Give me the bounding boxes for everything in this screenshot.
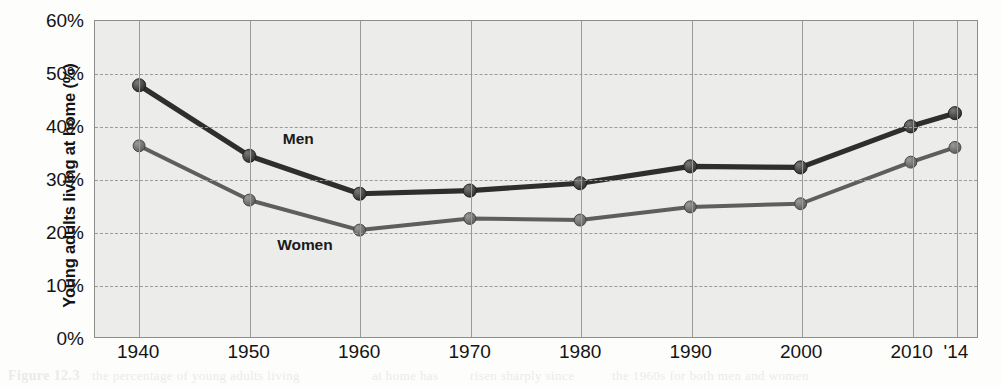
x-axis-tick-label: 2010	[891, 342, 933, 361]
data-point-marker	[684, 160, 697, 173]
x-axis-tick-label: 1990	[670, 342, 712, 361]
x-axis-tick-labels: 19401950196019701980199020002010'14	[94, 342, 978, 372]
vertical-gridline	[471, 21, 472, 337]
data-point-marker	[794, 161, 807, 174]
vertical-gridline	[957, 21, 958, 337]
vertical-gridline	[581, 21, 582, 337]
horizontal-gridline	[95, 127, 977, 128]
series-annotation-men: Men	[283, 130, 314, 148]
vertical-gridline	[913, 21, 914, 337]
vertical-gridline	[802, 21, 803, 337]
y-axis-tick-label: 60%	[28, 11, 84, 30]
data-point-marker	[795, 198, 807, 210]
x-axis-tick-label: 1950	[228, 342, 270, 361]
x-axis-tick-label: 1940	[117, 342, 159, 361]
figure-container: Figure 12.3the percentage of young adult…	[0, 0, 1001, 388]
vertical-gridline	[360, 21, 361, 337]
horizontal-gridline	[95, 74, 977, 75]
y-axis-tick-labels: 0%10%20%30%40%50%60%	[22, 0, 84, 388]
data-point-marker	[684, 201, 696, 213]
data-point-marker	[574, 177, 587, 190]
series-lines-layer	[95, 21, 977, 337]
y-axis-tick-label: 40%	[28, 117, 84, 136]
data-point-marker	[949, 141, 961, 153]
data-point-marker	[948, 107, 961, 120]
plot-area: MenWomen	[94, 20, 978, 338]
y-axis-tick-label: 20%	[28, 223, 84, 242]
y-axis-tick-label: 10%	[28, 276, 84, 295]
vertical-gridline	[139, 21, 140, 337]
series-line-men	[139, 85, 955, 193]
x-axis-tick-label: 1960	[338, 342, 380, 361]
x-axis-tick-label: 2000	[780, 342, 822, 361]
vertical-gridline	[692, 21, 693, 337]
horizontal-gridline	[95, 180, 977, 181]
y-axis-tick-label: 30%	[28, 170, 84, 189]
y-axis-tick-label: 0%	[28, 329, 84, 348]
data-point-marker	[905, 156, 917, 168]
x-axis-tick-label: 1980	[559, 342, 601, 361]
vertical-gridline	[250, 21, 251, 337]
horizontal-gridline	[95, 233, 977, 234]
y-axis-tick-label: 50%	[28, 64, 84, 83]
data-point-marker	[574, 214, 586, 226]
horizontal-gridline	[95, 286, 977, 287]
x-axis-tick-label: '14	[944, 342, 969, 361]
series-annotation-women: Women	[277, 236, 332, 254]
x-axis-tick-label: 1970	[449, 342, 491, 361]
